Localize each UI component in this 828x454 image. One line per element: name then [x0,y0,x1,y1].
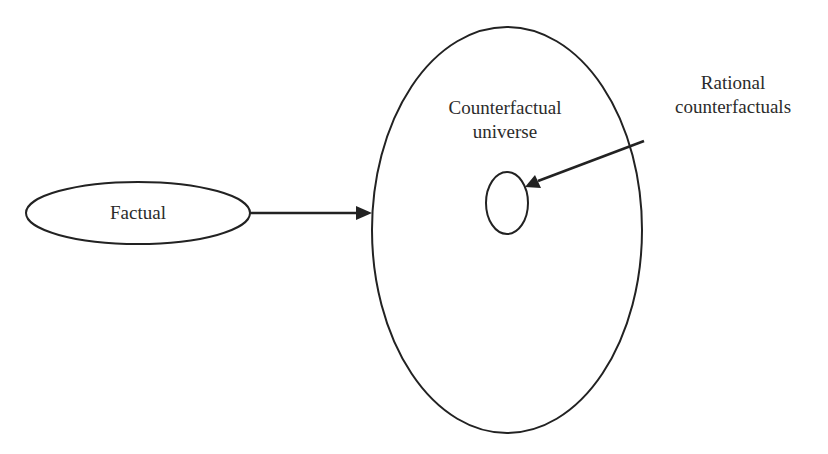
rational-to-subset-arrow [525,141,644,188]
rational-label-line2: counterfactuals [675,96,791,117]
counterfactual-universe-node: Counterfactual universe [372,27,642,433]
rational-subset-ellipse [486,172,528,234]
rational-counterfactuals-label: Rational counterfactuals [675,72,791,117]
universe-label-line1: Counterfactual [449,97,562,118]
rational-label-line1: Rational [701,72,765,93]
counterfactual-diagram: Factual Counterfactual universe Rational… [0,0,828,454]
factual-label: Factual [110,202,166,223]
factual-node: Factual [26,182,250,244]
universe-ellipse [372,27,642,433]
arrowhead-icon [356,206,372,220]
universe-label-line2: universe [473,121,537,142]
factual-to-universe-arrow [250,206,372,220]
